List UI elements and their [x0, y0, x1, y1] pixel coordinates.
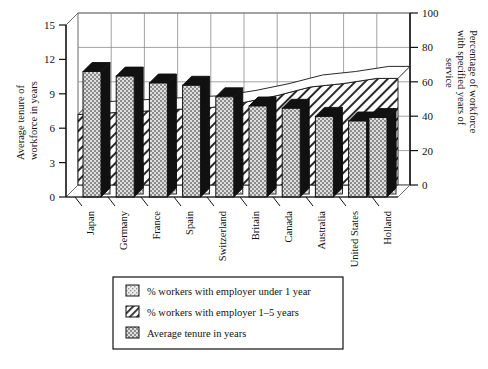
legend-item-under-1-year: % workers with employer under 1 year	[126, 285, 311, 297]
category-label-australia: Australia	[316, 211, 327, 250]
legend-label-under-1-year: % workers with employer under 1 year	[147, 286, 311, 297]
chart-svg: 15 12 9 6 3 0 100 80 60 40 20 0	[0, 0, 488, 369]
legend: % workers with employer under 1 year % w…	[113, 277, 343, 349]
right-axis-title-line2: with specified years of	[456, 30, 467, 126]
bar-tenure-britain	[249, 97, 276, 197]
right-tick-80: 80	[422, 41, 434, 53]
bar-tenure-switzerland	[216, 88, 243, 197]
hatch-swatch	[126, 306, 139, 317]
left-tick-0: 0	[50, 191, 56, 203]
right-tick-100: 100	[422, 7, 439, 19]
chart-figure: 15 12 9 6 3 0 100 80 60 40 20 0	[0, 0, 488, 369]
right-tick-40: 40	[422, 110, 434, 122]
left-axis-title-line2: workforce in years	[28, 81, 39, 160]
category-label-japan: Japan	[85, 210, 96, 235]
category-label-switzerland: Switzerland	[217, 210, 228, 261]
bar-tenure-australia	[315, 107, 342, 197]
left-tick-9: 9	[50, 88, 56, 100]
bar-tenure-canada	[282, 99, 309, 197]
bar-tenure-holland	[369, 109, 396, 198]
left-tick-6: 6	[50, 122, 56, 134]
category-label-france: France	[151, 211, 162, 240]
category-label-spain: Spain	[184, 210, 195, 235]
left-tick-3: 3	[50, 157, 56, 169]
category-label-canada: Canada	[283, 211, 294, 243]
category-label-britain: Britain	[250, 210, 261, 240]
legend-label-average-tenure: Average tenure in years	[147, 328, 246, 339]
bar-tenure-germany	[116, 67, 143, 197]
left-tick-15: 15	[44, 19, 56, 31]
right-axis-title-line1: Percentage of workforce	[468, 30, 479, 134]
bar-tenure-spain	[183, 76, 210, 197]
left-axis-title-line1: Average tenure of	[15, 84, 26, 160]
category-label-holland: Holland	[382, 210, 393, 245]
legend-item-1-5-years: % workers with employer 1–5 years	[126, 306, 299, 318]
bar-tenure-france	[149, 74, 176, 197]
bar-tenure-japan	[83, 63, 110, 198]
category-label-united-states: United States	[349, 211, 360, 267]
right-axis-title-line3: service	[444, 58, 455, 88]
right-tick-60: 60	[422, 76, 434, 88]
category-label-germany: Germany	[118, 210, 129, 250]
right-tick-20: 20	[422, 145, 434, 157]
dense-dot-swatch	[126, 327, 139, 338]
light-dot-swatch	[126, 285, 139, 296]
left-tick-12: 12	[44, 53, 55, 65]
legend-label-1-5-years: % workers with employer 1–5 years	[147, 307, 299, 318]
right-tick-0: 0	[422, 179, 428, 191]
